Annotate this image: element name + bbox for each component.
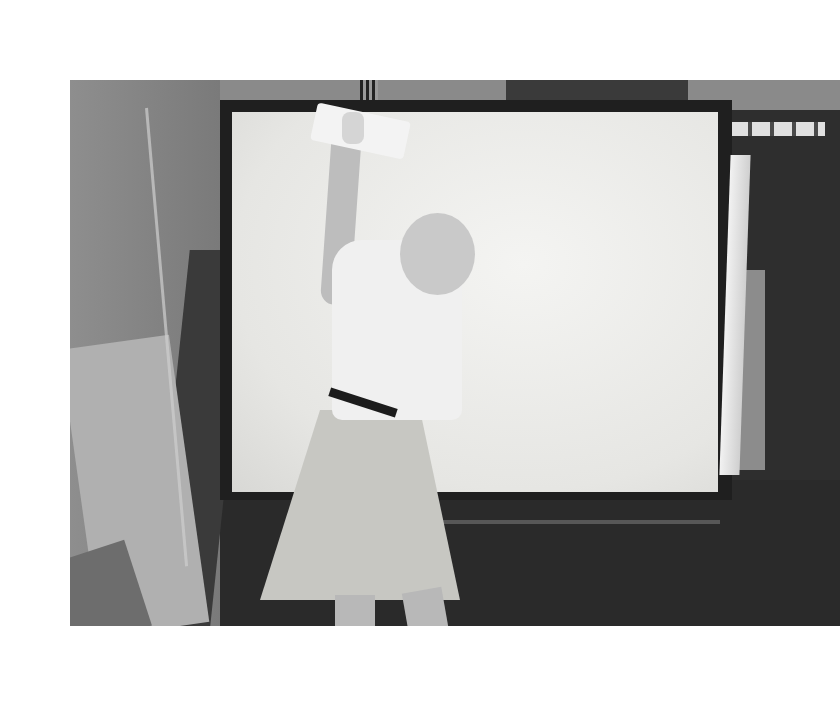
background-windows (730, 122, 825, 136)
ceiling-block (506, 80, 688, 102)
person-head (400, 213, 475, 295)
photograph (70, 80, 840, 626)
person-leg-right (402, 587, 448, 626)
pipes (360, 80, 378, 102)
white-screen (232, 112, 718, 492)
person-hand (342, 112, 364, 144)
person-leg-left (335, 595, 375, 626)
